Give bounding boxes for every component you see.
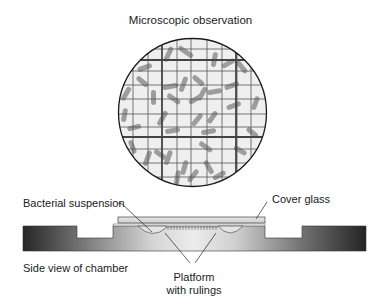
cover-glass (118, 217, 265, 223)
diagram-canvas (0, 0, 381, 307)
label-cover-glass: Cover glass (272, 193, 330, 206)
label-side-view: Side view of chamber (23, 262, 128, 275)
chamber-side-view (23, 217, 366, 251)
microscope-field (118, 36, 268, 190)
platform-rulings (166, 227, 218, 230)
label-bacterial-suspension: Bacterial suspension (23, 197, 125, 210)
label-platform-line2: with rulings (162, 284, 226, 297)
label-platform-line1: Platform (162, 271, 226, 284)
